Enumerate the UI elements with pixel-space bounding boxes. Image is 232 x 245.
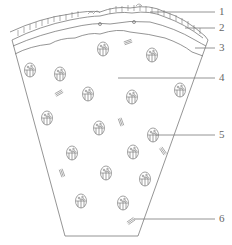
section-outline <box>12 40 208 236</box>
hatch-mark <box>118 118 124 127</box>
label-3: 3 <box>219 42 225 53</box>
dot <box>133 21 136 24</box>
label-4: 4 <box>219 72 225 83</box>
layer-3-boundary <box>15 30 203 56</box>
cell <box>25 63 36 77</box>
cell <box>67 146 78 160</box>
hatch-mark <box>124 39 133 45</box>
cell <box>140 172 151 186</box>
cell <box>101 166 112 180</box>
hatches-group <box>55 39 167 224</box>
hatch-mark <box>55 90 63 97</box>
label-1: 1 <box>219 6 225 17</box>
dot <box>99 23 102 26</box>
hatch-mark <box>59 169 65 178</box>
cell <box>98 42 109 56</box>
hatch-mark <box>127 217 135 224</box>
label-6: 6 <box>219 213 225 224</box>
cell <box>83 87 94 101</box>
cell <box>55 67 66 81</box>
cells-group <box>25 42 186 210</box>
hatch-mark <box>159 147 166 155</box>
cell <box>128 145 139 159</box>
cell <box>127 90 138 104</box>
cell <box>94 121 105 135</box>
cell <box>147 48 158 62</box>
label-5: 5 <box>219 129 225 140</box>
cell <box>42 111 53 125</box>
cell <box>175 83 186 97</box>
label-2: 2 <box>219 22 225 33</box>
cell <box>76 194 87 208</box>
tissue-cross-section-diagram <box>0 0 232 245</box>
cell <box>118 196 129 210</box>
